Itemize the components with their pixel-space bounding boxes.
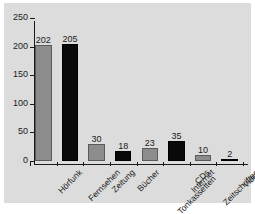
bar-value-label: 35 [171, 131, 181, 141]
bar-5: 23 [142, 148, 159, 161]
bar-8: 2 [221, 159, 238, 161]
y-tick-label: 200 [4, 41, 28, 52]
plot-area: 20220530182335102 [30, 18, 243, 161]
chart-panel: 050100150200250 20220530182335102 Hörfun… [4, 3, 251, 203]
bar-6: 35 [168, 141, 185, 161]
bar-value-label: 30 [92, 134, 102, 144]
x-tick-mark [57, 162, 58, 166]
bar-chart-figure: 050100150200250 20220530182335102 Hörfun… [0, 0, 255, 214]
y-tick-label: 100 [4, 98, 28, 109]
category-label-1: Hörfunk [57, 168, 84, 195]
y-tick-label: 0 [4, 155, 28, 166]
x-tick-mark [163, 162, 164, 166]
category-label-line1: Bücher [135, 167, 161, 193]
y-tick-label: 50 [4, 126, 28, 137]
x-tick-mark [137, 162, 138, 166]
bar-2: 205 [62, 44, 79, 161]
bar-7: 10 [195, 155, 212, 161]
x-tick-mark [190, 162, 191, 166]
x-tick-mark [216, 162, 217, 166]
x-tick-mark [83, 162, 84, 166]
bar-value-label: 202 [36, 35, 51, 45]
bar-value-label: 23 [145, 138, 155, 148]
category-label-line1: Hörfunk [56, 167, 84, 195]
x-tick-mark [243, 162, 244, 166]
bar-value-label: 205 [62, 34, 77, 44]
x-tick-mark [30, 162, 31, 166]
y-tick-label: 150 [4, 69, 28, 80]
category-label-4: Bücher [136, 168, 161, 193]
x-tick-mark [110, 162, 111, 166]
bar-3: 30 [88, 144, 105, 161]
bar-value-label: 18 [118, 141, 128, 151]
bar-4: 18 [115, 151, 132, 161]
bar-value-label: 2 [227, 149, 232, 159]
bar-1: 202 [35, 45, 52, 161]
bar-value-label: 10 [198, 145, 208, 155]
y-tick-label: 250 [4, 12, 28, 23]
